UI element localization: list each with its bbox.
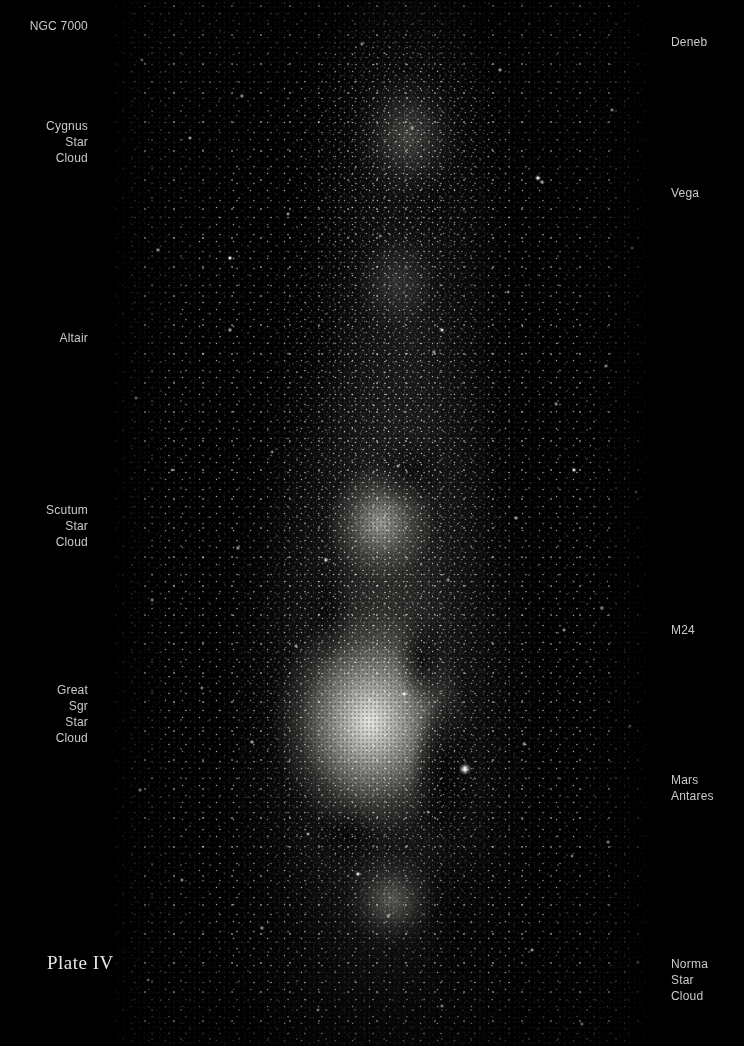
label-scutum-star-cloud: Scutum Star Cloud	[46, 502, 88, 550]
label-deneb: Deneb	[671, 34, 707, 50]
label-vega: Vega	[671, 185, 699, 201]
label-great-sgr-star-cloud: Great Sgr Star Cloud	[56, 682, 88, 746]
milky-way-photographic-plate	[112, 0, 649, 1046]
plate-vignette	[112, 0, 649, 1046]
label-ngc-7000: NGC 7000	[30, 18, 88, 34]
plate-caption: Plate IV	[47, 952, 114, 974]
label-norma-star-cloud: Norma Star Cloud	[671, 956, 708, 1004]
label-mars: Mars	[671, 772, 698, 788]
label-antares: Antares	[671, 788, 714, 804]
label-altair: Altair	[59, 330, 88, 346]
label-m24: M24	[671, 622, 695, 638]
astronomy-plate-iv: NGC 7000 Cygnus Star Cloud Altair Scutum…	[0, 0, 744, 1046]
label-cygnus-star-cloud: Cygnus Star Cloud	[46, 118, 88, 166]
